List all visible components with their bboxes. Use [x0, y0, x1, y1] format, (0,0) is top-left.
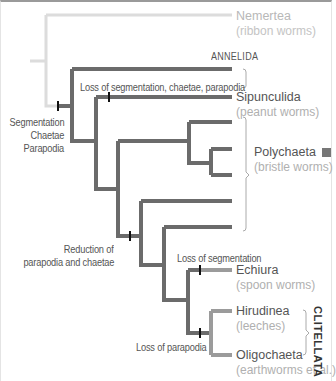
event-reduction-line1: Reduction of — [64, 244, 114, 255]
taxon-common-polychaeta: (bristle worms) — [254, 161, 333, 173]
clade-label-clitellata: CLITELLATA — [312, 306, 323, 377]
event-sipuncula-loss: Loss of segmentation, chaetae, parapodia — [80, 82, 245, 93]
event-parapodia: Parapodia — [23, 143, 64, 154]
taxon-name-echiura: Echiura — [236, 264, 278, 277]
polychaeta-marker-icon — [322, 148, 331, 157]
taxon-name-nemertea: Nemertea — [236, 10, 291, 23]
event-clitellata-loss: Loss of parapodia — [136, 342, 206, 353]
taxon-common-echiura: (spoon worms) — [236, 279, 315, 291]
annelida-branches — [58, 69, 232, 333]
taxon-name-oligochaeta: Oligochaeta — [236, 349, 303, 362]
taxon-common-nemertea: (ribbon worms) — [236, 25, 316, 37]
event-segmentation: Segmentation — [9, 117, 64, 128]
clade-label-annelida: ANNELIDA — [211, 52, 258, 62]
taxon-name-sipunculida: Sipunculida — [236, 91, 301, 104]
event-reduction-line2: parapodia and chaetae — [23, 257, 114, 268]
taxon-common-hirudinea: (leeches) — [236, 320, 285, 332]
event-chaetae: Chaetae — [30, 130, 64, 141]
polychaeta-label: Polychaeta — [254, 145, 316, 159]
event-echiura-loss: Loss of segmentation — [177, 253, 261, 264]
taxon-common-sipunculida: (peanut worms) — [236, 106, 319, 118]
taxon-name-polychaeta: Polychaeta — [254, 146, 331, 159]
taxon-name-hirudinea: Hirudinea — [236, 305, 290, 318]
